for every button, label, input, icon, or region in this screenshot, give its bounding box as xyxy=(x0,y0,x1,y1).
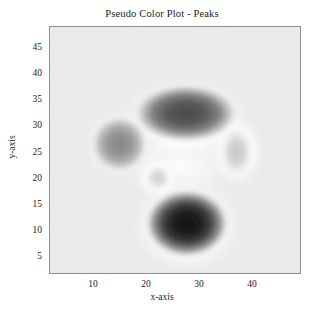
y-tick-label: 25 xyxy=(18,147,42,157)
heatmap-canvas xyxy=(50,27,300,273)
plot-area[interactable] xyxy=(49,26,301,274)
lower-darkest-peak xyxy=(144,189,229,258)
x-tick-label: 10 xyxy=(80,279,106,289)
y-tick-label: 5 xyxy=(18,251,42,261)
y-tick-label: 20 xyxy=(18,173,42,183)
center-small-peak xyxy=(145,165,171,191)
y-tick-label: 30 xyxy=(18,120,42,130)
y-tick-label: 40 xyxy=(18,68,42,78)
y-tick-label: 15 xyxy=(18,199,42,209)
y-axis-label: y-axis xyxy=(7,117,17,177)
left-mid-peak xyxy=(91,115,149,173)
x-tick-label: 20 xyxy=(133,279,159,289)
y-tick-label: 35 xyxy=(18,94,42,104)
y-tick-label: 45 xyxy=(18,42,42,52)
x-tick-label: 40 xyxy=(239,279,265,289)
x-axis-label: x-axis xyxy=(0,292,324,302)
pseudo-color-plot-figure: Pseudo Color Plot - Peaks xyxy=(0,0,324,317)
page-title: Pseudo Color Plot - Peaks xyxy=(0,8,324,19)
x-tick-label: 30 xyxy=(186,279,212,289)
right-faint-peak xyxy=(220,126,254,178)
y-tick-label: 10 xyxy=(18,225,42,235)
upper-dark-peak xyxy=(134,85,237,143)
